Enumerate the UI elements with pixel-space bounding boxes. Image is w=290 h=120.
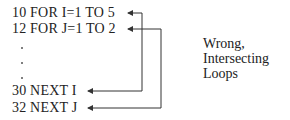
annotation-line: Loops (203, 66, 269, 81)
annotation-line: Wrong, (203, 36, 269, 51)
annotation-label: Wrong, Intersecting Loops (203, 36, 269, 81)
annotation-line: Intersecting (203, 51, 269, 66)
